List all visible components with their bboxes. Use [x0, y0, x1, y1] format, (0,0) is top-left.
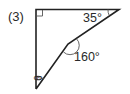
angle-label-35: 35° [83, 12, 102, 25]
figure-shape [0, 0, 130, 94]
angle-label-theta: θ [34, 75, 44, 81]
right-angle-marker [37, 10, 43, 16]
angle-arc-35 [108, 10, 109, 16]
angle-label-160: 160° [74, 51, 100, 64]
